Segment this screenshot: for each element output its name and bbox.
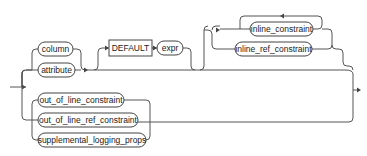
svg-text:inline_constraint: inline_constraint <box>251 24 313 34</box>
node-out-of-line-constraint: out_of_line_constraint <box>38 93 124 107</box>
node-supplemental-logging-props: supplemental_logging_props <box>38 133 147 147</box>
node-inline-constraint: inline_constraint <box>250 22 313 36</box>
node-default-keyword: DEFAULT <box>109 40 152 56</box>
svg-text:DEFAULT: DEFAULT <box>112 43 150 53</box>
node-inline-ref-constraint: inline_ref_constraint <box>235 42 312 56</box>
node-attribute: attribute <box>38 63 75 77</box>
node-out-of-line-ref-constraint: out_of_line_ref_constraint <box>38 113 138 127</box>
svg-text:inline_ref_constraint: inline_ref_constraint <box>235 44 312 54</box>
svg-text:column: column <box>42 44 70 54</box>
svg-text:attribute: attribute <box>41 65 72 75</box>
syntax-diagram: column attribute DEFAULT expr inline_con… <box>0 0 367 156</box>
node-expr: expr <box>157 41 183 55</box>
svg-text:out_of_line_ref_constraint: out_of_line_ref_constraint <box>39 115 137 125</box>
svg-text:out_of_line_constraint: out_of_line_constraint <box>39 95 123 105</box>
node-column: column <box>38 42 73 56</box>
svg-text:supplemental_logging_props: supplemental_logging_props <box>38 135 147 145</box>
svg-text:expr: expr <box>162 43 179 53</box>
